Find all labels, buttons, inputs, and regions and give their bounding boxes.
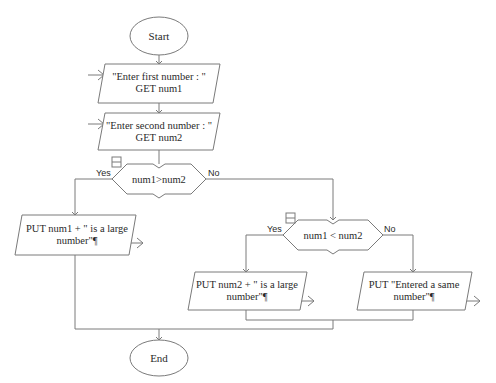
- edge-decision1-yes: [75, 179, 112, 215]
- output2-node[interactable]: PUT num2 + " is a large number"¶: [188, 272, 307, 310]
- output3-line2: number"¶: [393, 291, 434, 302]
- end-label: End: [150, 352, 168, 364]
- decision1-label: num1>num2: [132, 174, 186, 185]
- output1-line2: number"¶: [56, 235, 97, 246]
- end-node[interactable]: End: [130, 340, 188, 376]
- input2-node[interactable]: "Enter second number : " GET num2: [98, 113, 220, 150]
- start-node[interactable]: Start: [130, 17, 188, 55]
- input2-line2: GET num2: [136, 132, 183, 143]
- flowchart-canvas: Start "Enter first number : " GET num1 "…: [0, 0, 496, 383]
- edge-decision2-no: [383, 235, 413, 272]
- output1-node[interactable]: PUT num1 + " is a large number"¶: [15, 215, 136, 255]
- input1-node[interactable]: "Enter first number : " GET num1: [98, 64, 220, 103]
- output3-node[interactable]: PUT "Entered a same number"¶: [357, 272, 472, 310]
- input1-line2: GET num1: [136, 83, 183, 94]
- input-arrow-icon: [88, 70, 104, 80]
- decision1-no-label: No: [208, 168, 220, 178]
- input1-line1: "Enter first number : ": [112, 71, 206, 82]
- decision2-no-label: No: [384, 224, 396, 234]
- output3-line1: PUT "Entered a same: [369, 279, 460, 290]
- output-arrow-icon: [466, 296, 480, 306]
- decision2-label: num1 < num2: [303, 230, 362, 241]
- output2-line1: PUT num2 + " is a large: [196, 279, 298, 290]
- edge-output2-merge: [246, 310, 413, 320]
- start-label: Start: [149, 30, 170, 42]
- decision2-yes-label: Yes: [267, 224, 282, 234]
- output2-line2: number"¶: [226, 291, 267, 302]
- output1-line1: PUT num1 + " is a large: [26, 223, 128, 234]
- edge-decision2-yes: [246, 235, 283, 272]
- decision1-yes-label: Yes: [96, 168, 111, 178]
- input-arrow-icon: [88, 119, 104, 129]
- input2-line1: "Enter second number : ": [106, 120, 212, 131]
- edge-decision1-no: [206, 179, 333, 220]
